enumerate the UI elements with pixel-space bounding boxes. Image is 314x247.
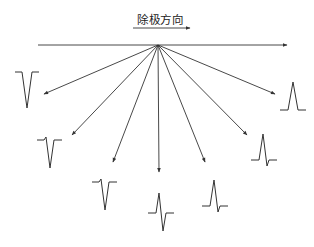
lead-3-vector-arrow (113, 45, 158, 162)
lead-2-waveform-rS (37, 137, 62, 168)
lead-5-vector-arrow (158, 45, 205, 162)
lead-6-waveform-Rs (251, 134, 277, 166)
depolarization-vector-diagram (0, 0, 314, 247)
lead-1-waveform-QS (15, 72, 39, 108)
lead-1-vector-arrow (44, 45, 158, 94)
lead-5-waveform-Rs (202, 180, 228, 212)
lead-2-vector-arrow (72, 45, 158, 135)
lead-4-waveform-RS (148, 193, 174, 231)
lead-4-vector-arrow (158, 45, 159, 172)
lead-7-waveform-R (280, 82, 306, 110)
lead-7-vector-arrow (158, 45, 275, 94)
lead-6-vector-arrow (158, 45, 247, 135)
lead-3-waveform-rS (92, 179, 117, 210)
